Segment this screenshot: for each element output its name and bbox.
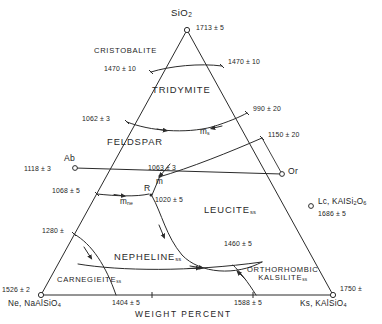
temp-label-nepheline-carnegieite: 1280 ± (42, 227, 64, 234)
tick-990 (245, 111, 249, 115)
field-label-nepheline-sub: ss (175, 256, 181, 262)
arrow-kalsilite-field (238, 272, 246, 280)
join-ab-or (75, 168, 281, 174)
corner-temperature-ne: 1526 ± 2 (2, 286, 30, 293)
field-label-nepheline: NEPHELINEss (114, 252, 181, 262)
field-label-leucite-text: LEUCITE (204, 204, 250, 215)
node-or (280, 172, 285, 177)
boundary-or-lc-upper (262, 138, 282, 174)
apex-label-sio2: SiO2 (171, 8, 192, 18)
boundary-cristobalite-tridymite (151, 65, 222, 72)
field-label-orthorhombic-kalsilite: ORTHORHOMBIC KALSILITEss (247, 266, 319, 282)
point-label-lc: Lc, KAISi2O6 (318, 198, 367, 207)
node-r (150, 194, 153, 197)
point-label-m: m (156, 178, 163, 187)
tick-1062 (125, 120, 129, 124)
point-temperature-r: 1020 ± 5 (155, 196, 183, 203)
temp-label-tridymite-feldspar-left: 1062 ± 3 (82, 115, 110, 122)
field-label-leucite: LEUCITEss (204, 205, 256, 215)
point-label-ms-sub: s (207, 130, 210, 136)
temp-label-cristobalite-tridymite-right: 1470 ± 10 (228, 58, 260, 65)
point-temperature-ab: 1118 ± 3 (24, 165, 51, 172)
temp-label-tridymite-right: 990 ± 20 (253, 105, 281, 112)
boundary-tridymite-feldspar-right (212, 113, 247, 127)
field-label-carnegieite-sub: ss (116, 279, 121, 284)
temp-label-base-ne-side: 1404 ± 5 (112, 299, 140, 306)
point-label-ms: ms (200, 128, 210, 137)
temp-label-feldspar-leucite-right: 1150 ± 20 (268, 131, 299, 138)
point-label-ab: Ab (64, 154, 75, 163)
point-label-mne-text: m (120, 197, 127, 206)
field-label-carnegieite: CARNEGIEITEss (57, 276, 121, 284)
temp-label-leucite-kalsilite: 1460 ± 5 (224, 240, 252, 247)
point-label-r: R (144, 184, 150, 193)
point-label-or: Or (288, 167, 298, 176)
temp-label-cristobalite-tridymite-left: 1470 ± 10 (104, 65, 136, 72)
point-label-mne: mne (120, 198, 133, 207)
apex-temperature: 1713 ± 5 (196, 24, 224, 31)
field-label-feldspar: FELDSPAR (107, 137, 163, 147)
temp-label-base-ks-side: 1588 ± 5 (234, 299, 262, 306)
point-temperature-lc: 1686 ± 5 (318, 210, 346, 217)
field-label-cristobalite: CRISTOBALITE (94, 47, 157, 55)
field-label-nepheline-text: NEPHELINE (114, 251, 175, 262)
axis-title: WEIGHT PERCENT (135, 310, 232, 319)
field-label-tridymite: TRIDYMITE (152, 85, 211, 95)
tick-1150 (260, 136, 264, 140)
node-ne-corner (38, 292, 43, 297)
field-label-kalsilite-line2: KALSILITE (258, 273, 302, 282)
field-label-kalsilite-sub: ss (302, 277, 307, 282)
node-sio2-apex (184, 27, 189, 32)
corner-temperature-ks: 1750 ± (340, 285, 362, 292)
point-temperature-m: 1063 ± 3 (148, 164, 176, 171)
corner-label-ne: Ne, NaAlSiO4 (8, 300, 61, 309)
arrow-r-sweep (159, 225, 164, 237)
node-lc (309, 204, 314, 209)
triangle-right-edge (187, 30, 333, 295)
point-label-ms-text: m (200, 127, 207, 136)
point-label-mne-sub: ne (127, 200, 133, 206)
field-label-leucite-sub: ss (250, 209, 256, 215)
phase-diagram: SiO2 1713 ± 5 CRISTOBALITE TRIDYMITE FEL… (0, 0, 382, 324)
boundary-nepheline-kalsilite (78, 262, 262, 269)
node-ab (73, 166, 78, 171)
arrow-carnegieite (84, 247, 91, 258)
field-label-carnegieite-text: CARNEGIEITE (57, 275, 116, 284)
field-label-kalsilite-line2-wrap: KALSILITEss (247, 274, 319, 282)
node-ks-corner (330, 292, 335, 297)
corner-label-ks: Ks, KAlSiO4 (300, 300, 347, 309)
arrow-nepheline-kalsilite (188, 268, 199, 269)
temp-label-feldspar-nepheline-left: 1068 ± 5 (52, 187, 80, 194)
